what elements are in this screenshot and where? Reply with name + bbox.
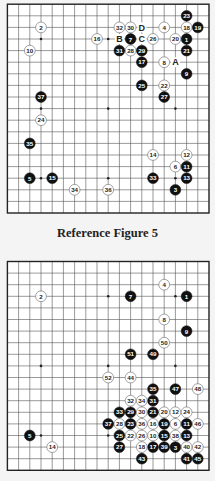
svg-text:14: 14 [150,151,157,158]
star-point [107,107,110,110]
black-stone-13: 13 [181,430,192,441]
svg-text:5: 5 [28,175,32,182]
svg-text:24: 24 [38,116,45,123]
svg-text:11: 11 [183,420,190,427]
white-stone-38: 38 [170,430,181,441]
white-stone-36: 36 [103,184,114,195]
black-stone-7: 7 [125,34,136,45]
svg-text:50: 50 [161,339,168,346]
white-stone-30: 30 [125,22,136,33]
black-stone-33: 33 [114,407,125,418]
black-stone-41: 41 [181,453,192,464]
svg-text:15: 15 [49,174,56,181]
svg-text:31: 31 [150,397,157,404]
svg-text:26: 26 [150,35,157,42]
white-stone-30: 30 [136,407,147,418]
svg-text:D: D [139,23,146,33]
svg-text:8: 8 [162,316,166,323]
black-stone-11: 11 [181,419,192,430]
svg-text:18: 18 [183,24,190,31]
svg-text:42: 42 [194,443,201,450]
svg-text:1: 1 [185,293,189,300]
svg-text:4: 4 [162,281,166,288]
white-stone-4: 4 [159,22,170,33]
svg-text:32: 32 [116,24,123,31]
white-stone-16: 16 [148,419,159,430]
black-stone-3: 3 [170,442,181,453]
svg-text:39: 39 [161,443,168,450]
white-stone-36: 36 [136,419,147,430]
svg-text:31: 31 [116,47,123,54]
black-stone-51: 51 [125,349,136,360]
black-stone-19: 19 [159,419,170,430]
star-point [107,38,110,41]
black-stone-37: 37 [103,419,114,430]
black-stone-9: 9 [181,326,192,337]
svg-text:23: 23 [127,420,134,427]
svg-text:17: 17 [150,443,157,450]
svg-text:23: 23 [183,12,190,19]
black-stone-15: 15 [47,173,58,184]
svg-text:12: 12 [183,151,190,158]
svg-text:7: 7 [129,293,133,300]
black-stone-27: 27 [159,92,170,103]
svg-text:22: 22 [127,432,134,439]
svg-text:25: 25 [138,82,145,89]
white-stone-48: 48 [192,384,203,395]
svg-text:30: 30 [138,408,145,415]
white-stone-14: 14 [47,442,58,453]
white-stone-52: 52 [103,372,114,383]
figure-caption: Reference Figure 5 [0,226,215,241]
svg-text:6: 6 [174,420,178,427]
svg-text:4: 4 [162,24,166,31]
star-point [107,295,110,298]
white-stone-18: 18 [181,22,192,33]
svg-text:37: 37 [105,420,112,427]
svg-text:51: 51 [127,350,134,357]
svg-text:10: 10 [26,47,33,54]
svg-text:A: A [172,57,179,67]
black-stone-7: 7 [125,291,136,302]
svg-text:37: 37 [38,93,45,100]
black-stone-21: 21 [181,45,192,56]
star-point [174,365,177,368]
svg-text:3: 3 [174,444,178,451]
svg-text:43: 43 [138,455,145,462]
svg-text:35: 35 [26,140,33,147]
black-stone-25: 25 [136,80,147,91]
star-point [107,434,110,437]
black-stone-29: 29 [125,407,136,418]
black-stone-47: 47 [170,384,181,395]
svg-text:13: 13 [183,432,190,439]
white-stone-28: 28 [125,45,136,56]
white-stone-6: 6 [170,161,181,172]
svg-text:33: 33 [116,408,123,415]
svg-text:7: 7 [129,36,133,43]
white-stone-26: 26 [148,34,159,45]
white-stone-4: 4 [159,279,170,290]
black-stone-3: 3 [170,184,181,195]
svg-text:3: 3 [174,186,178,193]
svg-text:26: 26 [138,432,145,439]
black-stone-29: 29 [136,45,147,56]
white-stone-10: 10 [148,430,159,441]
svg-text:40: 40 [183,443,190,450]
position-label-c: C [137,34,146,44]
svg-text:20: 20 [172,35,179,42]
star-point [40,434,43,437]
white-stone-32: 32 [125,395,136,406]
svg-text:13: 13 [183,174,190,181]
svg-text:41: 41 [183,455,190,462]
white-stone-16: 16 [92,34,103,45]
white-stone-14: 14 [148,150,159,161]
svg-text:B: B [116,34,123,44]
black-stone-31: 31 [114,45,125,56]
svg-text:38: 38 [172,432,179,439]
svg-text:C: C [139,34,146,44]
black-stone-11: 11 [181,161,192,172]
svg-text:19: 19 [194,24,201,31]
svg-text:36: 36 [138,420,145,427]
black-stone-31: 31 [148,395,159,406]
svg-text:2: 2 [39,24,43,31]
black-stone-17: 17 [148,442,159,453]
